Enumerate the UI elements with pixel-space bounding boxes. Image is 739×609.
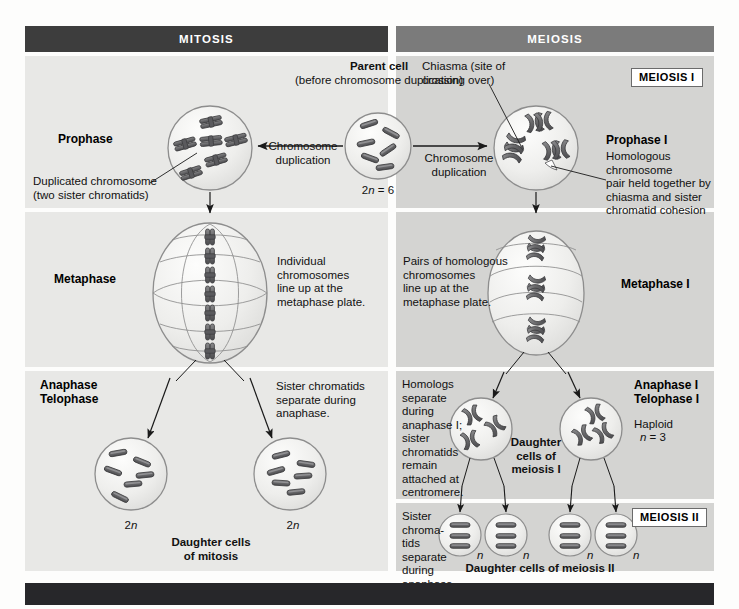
label-prophase-i: Prophase I [606,133,667,147]
meiosis-ii-daughter-cell-3 [549,514,591,556]
arrow-to-daughter-cell-left [148,378,170,438]
arrow-to-daughter-cell-right [250,378,272,438]
label-metaphase-i: Metaphase I [621,277,690,291]
mitosis-meiosis-comparison-figure: MITOSIS MEIOSIS [0,0,739,609]
ploidy-meiosis-ii-cell-1: n [477,549,483,563]
meiosis-ii-daughter-cell-4 [595,514,637,556]
footer-bar [25,583,714,605]
ploidy-meiosis-ii-cell-3: n [587,549,593,563]
label-chromosome-duplication-right: Chromosome duplication [418,152,500,179]
meiosis-ii-daughter-cell-2 [485,514,527,556]
label-metaphase: Metaphase [54,272,116,286]
arrow-to-meiosis-i-daughter-right [568,372,580,398]
meiosis-prophase-i-cell [489,84,606,190]
badge-meiosis-i: MEIOSIS I [631,68,703,87]
note-homologs-separate: Homologs separate during anaphase I; sis… [402,378,466,500]
mitosis-metaphase-cell [153,223,267,363]
caption-daughter-cells-of-meiosis-ii: Daughter cells of meiosis II [440,562,640,576]
arrow-to-meiosis-i-daughter-left [493,372,504,398]
ploidy-daughter-right: 2n [270,519,316,533]
label-haploid: Haploid [634,418,714,432]
badge-meiosis-ii: MEIOSIS II [632,508,707,527]
note-metaphase: Individual chromosomes line up at the me… [277,255,381,309]
label-chromosome-duplication-left: Chromosome duplication [262,140,344,167]
callout-duplicated-chromosome: Duplicated chromosome (two sister chroma… [33,175,183,202]
mitosis-daughter-cell-left [95,438,167,510]
callout-homologous-pair: Homologous chromosome pair held together… [606,150,738,218]
ploidy-meiosis-ii-cell-4: n [633,549,639,563]
note-sister-chromatids-separate: Sister chromatids separate during anapha… [276,380,384,421]
caption-daughter-cells-of-meiosis-i: Daughter cells of meiosis I [500,436,572,477]
label-anaphase-i-telophase-i: Anaphase I Telophase I [634,378,724,406]
ploidy-daughter-left: 2n [108,519,154,533]
label-prophase: Prophase [58,132,113,146]
label-anaphase-telophase: Anaphase Telophase [40,378,140,406]
parent-cell [345,113,411,179]
parent-cell-ploidy: 2n = 6 [345,184,411,198]
note-metaphase-i: Pairs of homologous chromosomes line up … [403,255,521,309]
callout-chiasma: Chiasma (site of crossing over) [422,60,552,87]
value-haploid-n: n = 3 [640,431,720,445]
mitosis-daughter-cell-right [254,438,326,510]
caption-daughter-cells-of-mitosis: Daughter cells of mitosis [144,536,278,563]
ploidy-meiosis-ii-cell-2: n [523,549,529,563]
